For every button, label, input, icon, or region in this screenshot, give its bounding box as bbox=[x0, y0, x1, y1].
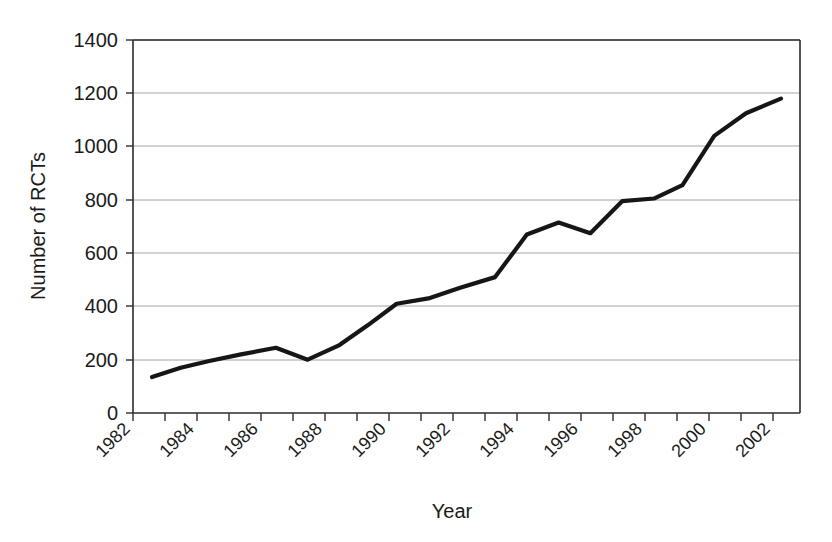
y-axis-title: Number of RCTs bbox=[27, 152, 49, 300]
ytick-label-1000: 1000 bbox=[74, 135, 119, 157]
xtick-label-1990: 1990 bbox=[347, 419, 389, 461]
xtick-label-2000: 2000 bbox=[667, 419, 709, 461]
xtick-label-1984: 1984 bbox=[155, 419, 197, 461]
xtick-label-1988: 1988 bbox=[283, 419, 325, 461]
ytick-label-1200: 1200 bbox=[74, 82, 119, 104]
y-tick-labels: 0 200 400 600 800 1000 1200 1400 bbox=[74, 29, 119, 424]
xtick-label-1986: 1986 bbox=[219, 419, 261, 461]
ytick-label-200: 200 bbox=[85, 349, 118, 371]
x-axis-title: Year bbox=[432, 500, 473, 522]
data-series-group bbox=[152, 99, 781, 377]
line-chart: 0 200 400 600 800 1000 1200 1400 bbox=[0, 0, 832, 542]
xtick-label-1982: 1982 bbox=[91, 419, 133, 461]
ytick-label-800: 800 bbox=[85, 189, 118, 211]
ytick-label-600: 600 bbox=[85, 242, 118, 264]
y-tick-marks bbox=[126, 40, 133, 413]
xtick-label-1998: 1998 bbox=[603, 419, 645, 461]
xtick-label-1994: 1994 bbox=[475, 419, 517, 461]
xtick-label-1992: 1992 bbox=[411, 419, 453, 461]
chart-container: 0 200 400 600 800 1000 1200 1400 bbox=[0, 0, 832, 542]
x-tick-marks bbox=[133, 413, 773, 421]
ytick-label-1400: 1400 bbox=[74, 29, 119, 51]
xtick-label-1996: 1996 bbox=[539, 419, 581, 461]
xtick-label-2002: 2002 bbox=[731, 419, 773, 461]
series-line-number-of-rcts bbox=[152, 99, 781, 377]
x-tick-labels: 1982 1984 1986 1988 1990 1992 1994 1996 … bbox=[91, 419, 773, 461]
grid-lines bbox=[133, 40, 800, 360]
ytick-label-400: 400 bbox=[85, 295, 118, 317]
